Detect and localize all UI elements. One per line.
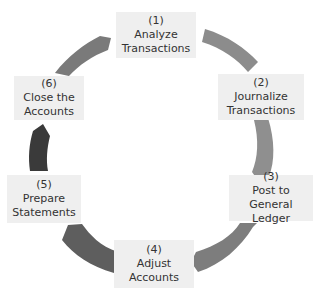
step-label: Post to [252, 184, 290, 198]
step-6-close-the-accounts: (6) Close the Accounts [14, 76, 84, 120]
step-5-prepare-statements: (5) Prepare Statements [7, 175, 81, 223]
step-label: Close the [23, 91, 75, 105]
step-number: (4) [146, 243, 162, 257]
step-label: Accounts [129, 271, 179, 285]
step-label: Transactions [122, 42, 191, 56]
step-label: General Ledger [229, 198, 313, 226]
step-label: Prepare [23, 192, 65, 206]
arrow-4-to-5 [62, 224, 118, 273]
step-number: (5) [36, 178, 52, 192]
arrow-5-to-6 [29, 124, 50, 171]
step-label: Analyze [134, 28, 177, 42]
step-number: (1) [148, 14, 164, 28]
step-label: Journalize [234, 90, 288, 104]
step-number: (2) [253, 76, 269, 90]
step-label: Statements [12, 206, 76, 220]
arrow-3-to-4 [191, 223, 257, 272]
step-number: (3) [263, 170, 279, 184]
step-label: Transactions [227, 104, 296, 118]
step-3-post-to-general-ledger: (3) Post to General Ledger [229, 175, 313, 221]
step-4-adjust-accounts: (4) Adjust Accounts [114, 240, 194, 288]
step-number: (6) [41, 77, 57, 91]
step-label: Accounts [24, 105, 74, 119]
step-label: Adjust [137, 257, 171, 271]
arrow-1-to-2 [202, 29, 258, 72]
step-1-analyze-transactions: (1) Analyze Transactions [116, 12, 196, 58]
arrow-6-to-1 [55, 36, 111, 76]
step-2-journalize-transactions: (2) Journalize Transactions [218, 74, 304, 120]
